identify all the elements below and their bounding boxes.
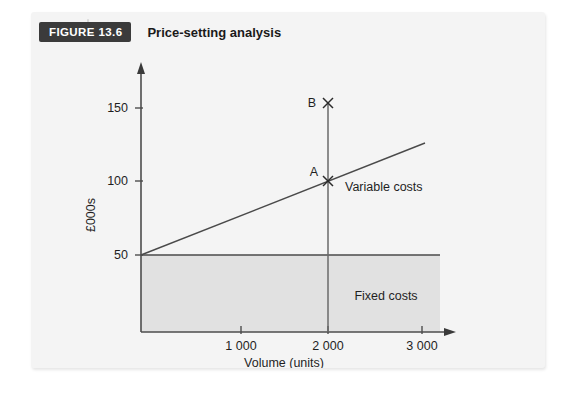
- y-tick-label-150: 150: [107, 101, 128, 115]
- point-b-label: B: [308, 96, 316, 110]
- figure-card: FIGURE 13.6 Price-setting analysis 150 1…: [31, 12, 545, 368]
- x-tick-label-1000: 1 000: [225, 339, 256, 353]
- y-axis-title: £000s: [84, 198, 98, 232]
- variable-costs-line: [141, 143, 425, 255]
- y-axis-arrow-icon: [137, 62, 145, 74]
- x-axis-title: Volume (units): [244, 356, 324, 368]
- x-tick-label-3000: 3 000: [406, 339, 437, 353]
- y-tick-label-50: 50: [114, 248, 128, 262]
- fixed-costs-label: Fixed costs: [354, 289, 417, 303]
- x-axis-arrow-icon: [444, 328, 456, 336]
- point-a-label: A: [310, 165, 319, 179]
- price-setting-analysis-chart: 150 100 50 £000s 1 000 2 000 3 000 Volum…: [31, 12, 545, 368]
- y-tick-label-100: 100: [107, 174, 128, 188]
- variable-costs-label: Variable costs: [345, 180, 423, 194]
- x-tick-label-2000: 2 000: [312, 339, 343, 353]
